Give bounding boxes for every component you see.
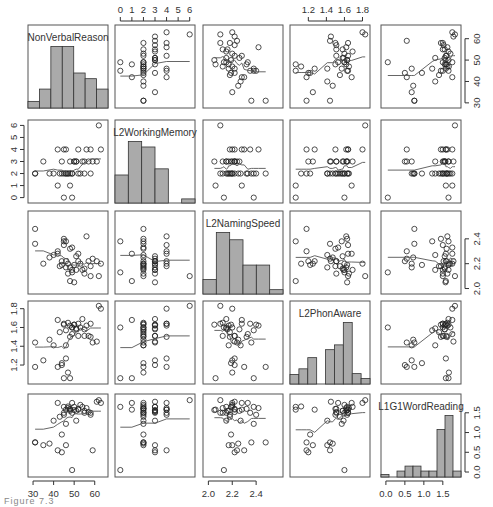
variable-label: NonVerbalReason <box>27 32 108 43</box>
svg-text:40: 40 <box>471 76 482 87</box>
svg-text:2.4: 2.4 <box>250 488 263 499</box>
x-axis-L2PhonAware: 1.21.41.61.8 <box>302 4 369 21</box>
svg-text:1.6: 1.6 <box>8 321 19 334</box>
smoother-line <box>35 251 101 267</box>
figure-caption: Figure 7.3 <box>4 496 55 506</box>
svg-text:0.0: 0.0 <box>471 465 482 478</box>
histogram-panel-L2PhonAware: L2PhonAware <box>290 301 370 384</box>
svg-text:2: 2 <box>141 4 146 15</box>
svg-text:3: 3 <box>152 4 157 15</box>
smoother-line <box>120 419 189 427</box>
scatter-panel-NonVerbalReason-vs-L1G1WordReading <box>28 394 108 477</box>
smoother-line <box>120 62 189 77</box>
variable-label: L2PhonAware <box>299 308 362 319</box>
variable-label: L2NamingSpeed <box>206 218 281 229</box>
histogram-panel-NonVerbalReason: NonVerbalReason <box>27 25 108 108</box>
svg-text:2: 2 <box>8 171 19 176</box>
svg-text:0.5: 0.5 <box>398 488 411 499</box>
svg-text:0.5: 0.5 <box>471 446 482 459</box>
scatter-panel-L2WorkingMemory-vs-L1G1WordReading <box>115 394 195 477</box>
scatter-panel-NonVerbalReason-vs-L2WorkingMemory <box>28 120 108 203</box>
svg-text:1.2: 1.2 <box>8 358 19 371</box>
svg-text:1.4: 1.4 <box>8 340 19 353</box>
scatter-panel-L2PhonAware-vs-L2NamingSpeed <box>290 211 370 294</box>
y-axis-L2PhonAware: 1.21.41.61.8 <box>8 302 24 372</box>
svg-text:0: 0 <box>8 195 19 200</box>
svg-text:1.5: 1.5 <box>471 406 482 419</box>
smoother-line <box>296 162 366 170</box>
smoother-line <box>388 163 455 170</box>
svg-text:1: 1 <box>129 4 134 15</box>
scatter-panel-L2WorkingMemory-vs-L2NamingSpeed <box>115 211 195 294</box>
svg-text:2.0: 2.0 <box>471 282 482 295</box>
smoother-line <box>214 164 265 169</box>
y-axis-L1G1WordReading: 0.00.51.01.5 <box>465 406 482 478</box>
svg-text:1.6: 1.6 <box>338 4 351 15</box>
svg-text:0: 0 <box>118 4 123 15</box>
scatter-panel-NonVerbalReason-vs-L2PhonAware <box>28 301 108 384</box>
svg-text:1.0: 1.0 <box>417 488 430 499</box>
scatter-panel-L2NamingSpeed-vs-L2WorkingMemory <box>203 120 283 203</box>
histogram-panel-L2NamingSpeed: L2NamingSpeed <box>203 211 283 294</box>
svg-text:1: 1 <box>8 183 19 188</box>
scatter-panel-L1G1WordReading-vs-L2PhonAware <box>381 301 461 384</box>
svg-text:50: 50 <box>471 55 482 66</box>
svg-text:4: 4 <box>8 147 19 152</box>
svg-text:2.2: 2.2 <box>471 257 482 270</box>
scatter-panel-L2NamingSpeed-vs-L1G1WordReading <box>203 394 283 477</box>
svg-text:1.0: 1.0 <box>471 426 482 439</box>
svg-text:2.2: 2.2 <box>226 488 239 499</box>
svg-text:0.0: 0.0 <box>379 488 392 499</box>
scatter-panel-L1G1WordReading-vs-L2NamingSpeed <box>381 211 461 294</box>
y-axis-L2WorkingMemory: 0123456 <box>8 123 24 200</box>
scatter-panel-L2PhonAware-vs-NonVerbalReason <box>290 25 370 108</box>
svg-text:2.4: 2.4 <box>471 232 482 245</box>
histogram-panel-L2WorkingMemory: L2WorkingMemory <box>113 120 197 203</box>
svg-text:5: 5 <box>8 135 19 140</box>
svg-text:5: 5 <box>175 4 180 15</box>
scatter-panel-NonVerbalReason-vs-L2NamingSpeed <box>28 211 108 294</box>
svg-text:1.2: 1.2 <box>302 4 315 15</box>
smoother-line <box>35 411 101 429</box>
svg-text:30: 30 <box>471 98 482 109</box>
scatter-panel-L2NamingSpeed-vs-L2PhonAware <box>203 301 283 384</box>
svg-text:6: 6 <box>8 123 19 128</box>
scatter-panel-L1G1WordReading-vs-NonVerbalReason <box>381 25 461 108</box>
svg-text:60: 60 <box>471 33 482 44</box>
pairs-plot: NonVerbalReasonL2WorkingMemoryL2NamingSp… <box>0 0 493 507</box>
svg-text:3: 3 <box>8 159 19 164</box>
svg-text:4: 4 <box>164 4 169 15</box>
svg-text:1.8: 1.8 <box>8 302 19 315</box>
variable-label: L1G1WordReading <box>378 401 463 412</box>
scatter-panel-L2WorkingMemory-vs-L2PhonAware <box>115 301 195 384</box>
smoother-line <box>120 336 189 348</box>
scatter-panel-L2NamingSpeed-vs-NonVerbalReason <box>203 25 283 108</box>
svg-text:1.8: 1.8 <box>356 4 369 15</box>
scatter-panel-L2PhonAware-vs-L1G1WordReading <box>290 394 370 477</box>
variable-label: L2WorkingMemory <box>113 127 197 138</box>
smoother-line <box>296 413 366 433</box>
y-axis-L2NamingSpeed: 2.02.22.4 <box>465 232 482 295</box>
scatter-panel-L2WorkingMemory-vs-NonVerbalReason <box>115 25 195 108</box>
svg-text:1.5: 1.5 <box>436 488 449 499</box>
y-axis-NonVerbalReason: 30405060 <box>465 33 482 108</box>
svg-text:6: 6 <box>187 4 192 15</box>
svg-text:50: 50 <box>69 488 80 499</box>
x-axis-L2WorkingMemory: 0123456 <box>118 4 193 21</box>
histogram-panel-L1G1WordReading: L1G1WordReading <box>378 394 463 477</box>
scatter-panel-L2PhonAware-vs-L2WorkingMemory <box>290 120 370 203</box>
svg-text:1.4: 1.4 <box>320 4 333 15</box>
x-axis-L1G1WordReading: 0.00.51.01.5 <box>379 481 449 499</box>
scatter-panel-L1G1WordReading-vs-L2WorkingMemory <box>381 120 461 203</box>
svg-text:2.0: 2.0 <box>202 488 215 499</box>
svg-text:60: 60 <box>89 488 100 499</box>
x-axis-L2NamingSpeed: 2.02.22.4 <box>202 481 263 499</box>
